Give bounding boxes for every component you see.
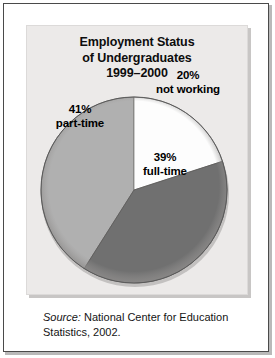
figure-frame: Employment Status of Undergraduates 1999… — [3, 3, 269, 352]
pie-chart: 20% not working 41% part-time 39% full-t… — [27, 26, 249, 296]
pie-label-full-time-value: 39% — [119, 151, 211, 165]
source-note: Source: National Center for Education St… — [43, 310, 253, 339]
figure-root: Employment Status of Undergraduates 1999… — [0, 0, 275, 358]
chart-panel: Employment Status of Undergraduates 1999… — [26, 25, 248, 295]
pie-label-not-working: 20% not working — [140, 69, 236, 96]
source-note-label: Source: — [43, 311, 81, 323]
pie-label-full-time: 39% full-time — [119, 151, 211, 178]
pie-label-full-time-name: full-time — [119, 165, 211, 179]
pie-label-part-time: 41% part-time — [37, 103, 123, 130]
pie-label-part-time-value: 41% — [37, 103, 123, 117]
pie-label-not-working-value: 20% — [140, 69, 236, 83]
pie-label-not-working-name: not working — [140, 83, 236, 97]
pie-label-part-time-name: part-time — [37, 117, 123, 131]
